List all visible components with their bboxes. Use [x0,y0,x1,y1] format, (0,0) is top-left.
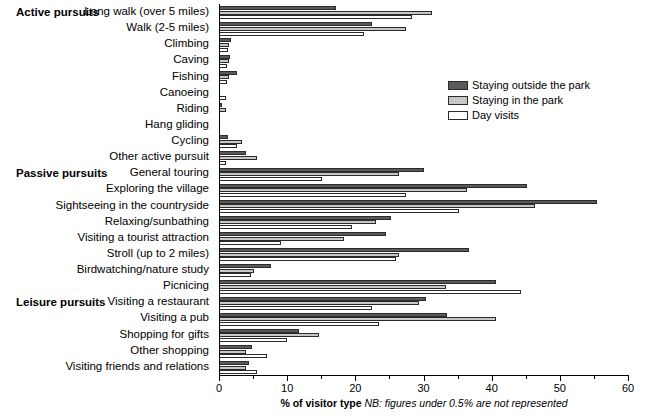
bar [219,317,496,321]
legend: Staying outside the parkStaying in the p… [448,78,590,123]
bar [219,135,228,139]
category-label: Shopping for gifts [0,329,214,341]
x-axis-title: % of visitor type NB: figures under 0.5%… [219,397,629,409]
category-label: Hang gliding [0,119,214,131]
bar [219,313,447,317]
bar [219,338,287,342]
bar [219,232,386,236]
bar [219,216,391,220]
x-tick-major [560,376,561,381]
bar [219,184,527,188]
category-label: Canoeing [0,87,214,99]
bar [219,204,535,208]
bar [219,350,246,354]
bar [219,297,426,301]
x-axis-title-note: NB: figures under 0.5% are not represent… [364,397,567,409]
bar [219,43,229,47]
category-label: Exploring the village [0,183,214,195]
bar [219,306,372,310]
category-label: Riding [0,103,214,115]
bar [219,71,237,75]
bar [219,15,412,19]
bar [219,161,226,165]
x-tick-minor [253,376,254,379]
bar [219,370,257,374]
x-tick-minor [526,376,527,379]
y-axis-line [219,4,220,375]
bar [219,333,319,337]
x-tick-label: 0 [204,382,234,394]
x-tick-major [492,376,493,381]
x-axis-title-main: % of visitor type [280,397,361,409]
x-tick-label: 30 [409,382,439,394]
bar [219,38,231,42]
bar [219,48,228,52]
group-heading: Active pursuits [0,6,120,18]
group-heading: Leisure pursuits [0,296,120,308]
category-label: Cycling [0,135,214,147]
x-tick-label: 40 [477,382,507,394]
bar [219,322,379,326]
legend-item: Day visits [448,108,590,122]
bar [219,6,336,10]
bar [219,200,597,204]
category-label: Visiting a tourist attraction [0,232,214,244]
bar [219,257,396,261]
x-tick-label: 50 [545,382,575,394]
bar [219,345,252,349]
bar [219,27,406,31]
x-tick-minor [594,376,595,379]
x-tick-major [355,376,356,381]
bar [219,280,496,284]
bar [219,290,521,294]
bar [219,80,227,84]
bar [219,156,257,160]
x-tick-label: 10 [272,382,302,394]
bar [219,32,364,36]
category-label: Sightseeing in the countryside [0,200,214,212]
x-tick-label: 20 [340,382,370,394]
bar [219,55,230,59]
legend-label: Staying outside the park [472,79,590,91]
category-label: Stroll (up to 2 miles) [0,248,214,260]
category-label: Climbing [0,38,214,50]
bar [219,301,419,305]
x-tick-major [424,376,425,381]
legend-swatch-icon [448,96,468,105]
bar [219,144,237,148]
bar [219,209,459,213]
category-label: Birdwatching/nature study [0,264,214,276]
bar [219,269,254,273]
category-label: Other active pursuit [0,151,214,163]
bar [219,59,229,63]
bar [219,168,424,172]
bar [219,108,226,112]
category-label: Other shopping [0,345,214,357]
category-label: Visiting friends and relations [0,361,214,373]
legend-swatch-icon [448,81,468,90]
bar [219,329,299,333]
bar [219,253,399,257]
legend-item: Staying in the park [448,93,590,107]
x-tick-minor [458,376,459,379]
legend-label: Day visits [472,109,519,121]
group-heading: Passive pursuits [0,167,120,179]
bar [219,366,246,370]
bar [219,22,372,26]
x-tick-label: 60 [613,382,643,394]
x-tick-major [219,376,220,381]
bar [219,264,271,268]
category-label: Relaxing/sunbathing [0,216,214,228]
bar [219,75,229,79]
category-label: Caving [0,54,214,66]
bar [219,285,446,289]
x-tick-major [628,376,629,381]
bar [219,140,242,144]
bar [219,248,469,252]
legend-swatch-icon [448,111,468,120]
bar [219,11,432,15]
bar [219,220,376,224]
bar [219,237,344,241]
bar [219,193,406,197]
bar [219,361,249,365]
